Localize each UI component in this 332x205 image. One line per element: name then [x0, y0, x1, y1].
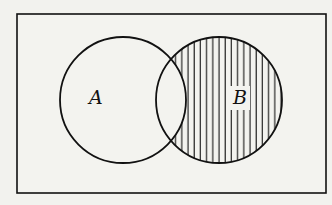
set-label-a: A [87, 86, 103, 108]
venn-diagram: A B [0, 0, 332, 205]
set-label-b: B [232, 86, 247, 108]
